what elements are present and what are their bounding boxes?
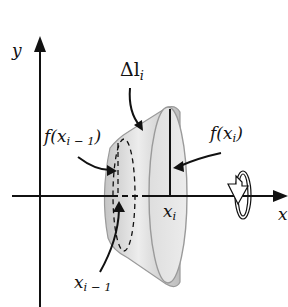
frustum-diagram: y x Δli f(xi − 1) f(xi) xi xi − 1 [0, 0, 288, 307]
y-axis-label: y [12, 42, 22, 59]
f-prev-pointer-icon [78, 157, 110, 170]
x-prev-main: x [74, 272, 84, 292]
f-curr-label: f(xi) [210, 125, 243, 145]
f-prev-label: f(xi − 1) [44, 128, 101, 148]
delta-l-sub: i [140, 68, 144, 83]
f-curr-close: ) [236, 123, 243, 143]
x-prev-sub: i − 1 [84, 280, 112, 294]
delta-l-main: Δl [120, 58, 140, 80]
x-curr-main: x [163, 201, 173, 221]
f-prev-main: f(x [44, 126, 67, 146]
x-curr-sub: i [173, 209, 177, 223]
delta-l-pointer-icon [130, 88, 140, 126]
f-prev-sub: i − 1 [67, 134, 95, 148]
x-axis-arrow-icon [273, 190, 288, 202]
diagram-canvas [0, 0, 288, 307]
x-prev-label: xi − 1 [74, 274, 112, 294]
f-curr-main: f(x [210, 123, 233, 143]
x-axis-label: x [278, 206, 288, 223]
delta-l-label: Δli [120, 60, 144, 83]
f-prev-close: ) [95, 126, 102, 146]
x-curr-label: xi [163, 203, 176, 223]
y-axis-arrow-icon [34, 36, 46, 52]
